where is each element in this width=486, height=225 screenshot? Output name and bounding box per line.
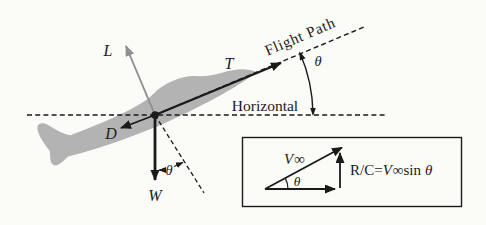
cg-dot [151, 111, 159, 119]
theta-weight-label: θ [165, 162, 172, 178]
velocity-label-infinity: ∞ [294, 151, 305, 167]
lift-label: L [103, 42, 113, 59]
thrust-label: T [225, 55, 235, 72]
equation-prefix: R/C= [350, 162, 383, 178]
equation-infinity: ∞ [393, 162, 404, 178]
equation-sin: sin [404, 162, 422, 178]
horizontal-label: Horizontal [232, 97, 298, 114]
rate-of-climb-equation: R/C=V∞sinθ [350, 162, 433, 178]
weight-label: W [148, 187, 163, 204]
equation-theta: θ [425, 162, 433, 178]
figure-canvas: L T D W θ θ Flight Path Horizontal V∞ θ … [0, 0, 486, 225]
inset-theta-label: θ [294, 174, 301, 189]
theta-arc-label: θ [314, 53, 321, 69]
velocity-label: V∞ [284, 151, 305, 167]
climb-diagram-svg: L T D W θ θ Flight Path Horizontal V∞ θ … [0, 0, 486, 225]
drag-label: D [104, 125, 117, 142]
inset-box: V∞ θ R/C=V∞sinθ [243, 138, 462, 207]
